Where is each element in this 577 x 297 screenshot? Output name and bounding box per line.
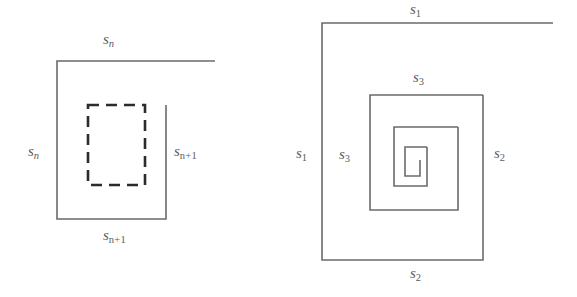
label-sn-top-sub: n — [109, 38, 114, 49]
label-sn-left-sub: n — [34, 150, 39, 161]
label-s1-left-sub: 1 — [302, 152, 307, 163]
figure-canvas — [0, 0, 577, 297]
label-s3-left: s3 — [339, 147, 350, 165]
figure-page: sn sn sn+1 sn+1 s1 s1 s2 s2 s3 s3 — [0, 0, 577, 297]
label-s2-right-sub: 2 — [500, 152, 505, 163]
right-outer-square-path — [322, 23, 553, 260]
label-sn-top: sn — [103, 32, 114, 50]
label-sn1-right: sn+1 — [174, 144, 197, 162]
label-s3-left-sub: 3 — [345, 153, 350, 164]
label-sn1-bottom: sn+1 — [103, 228, 126, 246]
label-s2-bottom: s2 — [410, 266, 421, 284]
label-s1-top: s1 — [410, 2, 421, 20]
label-s1-top-sub: 1 — [416, 8, 421, 19]
left-dashed-square — [88, 105, 145, 185]
label-s2-bottom-sub: 2 — [416, 272, 421, 283]
left-outer-square-path — [57, 61, 215, 219]
right-ring-4-core-path — [405, 147, 427, 176]
right-ring-3-path — [394, 127, 458, 186]
label-s3-top: s3 — [413, 70, 424, 88]
left-figure-group — [57, 61, 215, 219]
right-figure-group — [322, 23, 553, 260]
label-sn-left: sn — [28, 144, 39, 162]
label-s3-top-sub: 3 — [419, 76, 424, 87]
label-sn1-right-sub: n+1 — [180, 150, 197, 161]
label-s1-left: s1 — [296, 146, 307, 164]
label-s2-right: s2 — [494, 146, 505, 164]
label-sn1-bottom-sub: n+1 — [109, 234, 126, 245]
